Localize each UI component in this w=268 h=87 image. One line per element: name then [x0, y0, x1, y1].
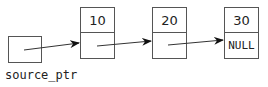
pointer-arrows [0, 0, 268, 87]
arrow-source-to-node1 [24, 43, 79, 50]
arrow-node2-to-node3 [168, 40, 223, 45]
arrow-node1-to-node2 [97, 41, 151, 46]
